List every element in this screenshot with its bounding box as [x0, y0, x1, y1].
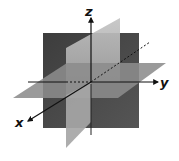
coordinate-planes-diagram: z y x	[0, 0, 179, 161]
y-axis-label: y	[160, 75, 169, 90]
x-axis-label: x	[14, 115, 24, 130]
z-axis-label: z	[84, 4, 93, 19]
